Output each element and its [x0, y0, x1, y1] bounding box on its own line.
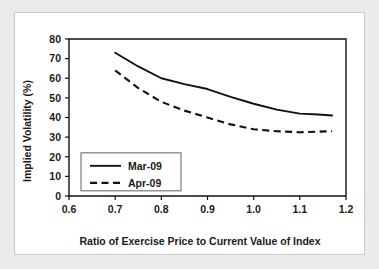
y-tick-label: 40: [49, 111, 61, 123]
y-tick-label: 30: [49, 131, 61, 143]
y-tick-label: 50: [49, 92, 61, 104]
volatility-smile-chart: Implied Volatility (%) 01020304050607080…: [15, 13, 364, 254]
y-tick-label: 0: [55, 190, 61, 202]
x-tick-label: 0.9: [200, 203, 215, 215]
y-tick-label: 80: [49, 33, 61, 45]
y-tick-label: 60: [49, 72, 61, 84]
figure-card: Implied Volatility (%) 01020304050607080…: [14, 12, 365, 255]
x-tick-label: 1.1: [293, 203, 308, 215]
chart-legend: Mar-09Apr-09: [81, 153, 181, 191]
y-tick-label: 10: [49, 170, 61, 182]
x-tick-label: 1.2: [339, 203, 354, 215]
x-tick-label: 0.8: [154, 203, 169, 215]
x-tick-label: 0.7: [108, 203, 123, 215]
y-tick-label: 70: [49, 52, 61, 64]
y-axis-group: Implied Volatility (%) 01020304050607080: [21, 33, 69, 202]
x-tick-label: 1.0: [246, 203, 261, 215]
x-tick-label: 0.6: [62, 203, 77, 215]
legend-label-mar-09: Mar-09: [128, 160, 162, 172]
legend-label-apr-09: Apr-09: [128, 177, 161, 189]
series-line-mar-09: [115, 53, 332, 116]
chart-svg: Implied Volatility (%) 01020304050607080…: [15, 13, 364, 254]
y-tick-label: 20: [49, 151, 61, 163]
data-series-group: [115, 53, 332, 132]
series-line-apr-09: [115, 70, 332, 132]
x-axis-group: Ratio of Exercise Price to Current Value…: [62, 196, 354, 247]
y-axis-title: Implied Volatility (%): [21, 80, 33, 182]
x-tick-group: 0.60.70.80.91.01.11.2: [62, 196, 354, 215]
x-axis-title: Ratio of Exercise Price to Current Value…: [80, 235, 321, 247]
y-tick-group: 01020304050607080: [49, 33, 69, 202]
